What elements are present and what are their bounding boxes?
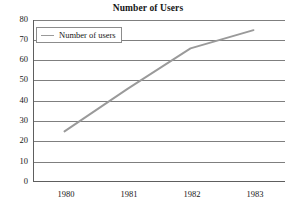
- x-tick-label-1980: 1980: [41, 189, 91, 199]
- y-tick-label-10: 10: [4, 157, 28, 166]
- y-tick-label-40: 40: [4, 96, 28, 105]
- y-tick-label-70: 70: [4, 35, 28, 44]
- y-tick-label-30: 30: [4, 116, 28, 125]
- chart-legend[interactable]: Number of users: [36, 27, 122, 43]
- y-tick-label-20: 20: [4, 136, 28, 145]
- chart-title: Number of Users: [0, 3, 296, 13]
- x-tick-label-1981: 1981: [104, 189, 154, 199]
- y-tick-label-60: 60: [4, 55, 28, 64]
- legend-line-swatch-icon: [41, 35, 54, 36]
- legend-entry-label: Number of users: [59, 30, 116, 40]
- x-tick-label-1982: 1982: [167, 189, 217, 199]
- plot-area: [33, 20, 285, 182]
- y-tick-label-0: 0: [4, 177, 28, 186]
- plot-svg: [33, 20, 285, 182]
- y-tick-label-80: 80: [4, 15, 28, 24]
- chart-container: Number of Users: [0, 0, 296, 213]
- x-tick-label-1983: 1983: [230, 189, 280, 199]
- y-tick-label-50: 50: [4, 75, 28, 84]
